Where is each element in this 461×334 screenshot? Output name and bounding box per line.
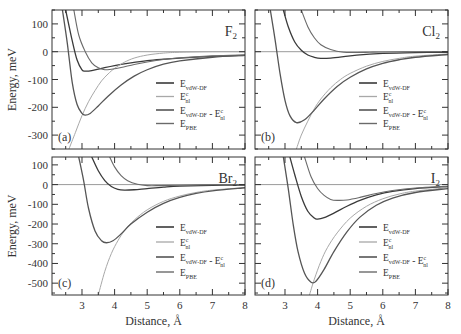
curves [283,157,448,295]
y-tick-label: 100 [32,159,49,171]
figure-4-panels: 1000-100-200-300Energy, meV(a)F2EvdW-DFE… [0,0,461,334]
panel-tag: (c) [58,276,71,290]
curves [62,10,245,149]
y-tick-label: -100 [28,198,49,210]
panel-tag: (a) [58,130,71,144]
legend-label: Ecnl [180,237,190,250]
panel-b: (b)Cl2EvdW-DFEcnlEvdW-DF - EcnlEPBE [255,10,448,149]
molecule-subscript: 2 [233,178,238,188]
molecule-label: Br2 [219,171,238,188]
legend-label: EPBE [180,119,197,131]
y-tick-label: 0 [43,179,49,191]
y-tick-label: -500 [28,277,49,289]
legend: EvdW-DFEcnlEvdW-DF - EcnlEPBE [156,223,225,280]
x-tick-label: 7 [210,299,216,311]
legend-label: EvdW-DF - Ecnl [383,253,428,268]
molecule-label: Cl2 [422,24,440,41]
x-tick-label: 3 [282,299,288,311]
panel-tag: (d) [261,276,275,290]
x-tick-label: 5 [144,299,150,311]
legend: EvdW-DFEcnlEvdW-DF - EcnlEPBE [156,79,225,132]
x-tick-label: 4 [315,299,321,311]
series-line-e-pbe [305,157,448,200]
plot-frame [255,10,448,149]
legend-label: Ecnl [180,91,190,104]
x-tick-label: 6 [177,299,183,311]
panel-a: 1000-100-200-300Energy, meV(a)F2EvdW-DFE… [5,10,245,149]
legend-label: EvdW-DF [383,223,410,235]
x-tick-label: 8 [445,299,451,311]
y-tick-label: 0 [43,46,49,58]
y-tick-label: -200 [28,218,49,230]
legend: EvdW-DFEcnlEvdW-DF - EcnlEPBE [359,79,428,132]
y-tick-label: 100 [32,18,49,30]
plot-frame [52,10,245,149]
y-axis-title: Energy, meV [5,194,19,257]
legend-label: EPBE [383,268,400,280]
series-line-e-vdw-df-e-nl-c [79,157,245,243]
molecule-subscript: 2 [233,31,238,41]
molecule-subscript: 2 [436,178,441,188]
x-tick-label: 4 [112,299,118,311]
panel-d: 345678Distance, Å(d)I2EvdW-DFEcnlEvdW-DF… [255,157,451,328]
y-tick-label: -300 [28,129,49,141]
panel-c: 3456781000-100-200-300-400-500Energy, me… [5,157,248,328]
legend-label: EPBE [180,268,197,280]
x-tick-label: 6 [380,299,386,311]
plot-frame [52,157,245,295]
molecule-label: I2 [431,171,440,188]
x-tick-label: 3 [79,299,85,311]
x-axis-title: Distance, Å [328,314,385,328]
legend-label: EvdW-DF [383,79,410,91]
y-tick-label: -100 [28,74,49,86]
legend-label: EvdW-DF - Ecnl [383,106,428,121]
legend: EvdW-DFEcnlEvdW-DF - EcnlEPBE [359,223,428,280]
series-line-e-pbe [74,10,245,70]
x-tick-label: 8 [242,299,248,311]
y-axis-title: Energy, meV [5,48,19,111]
x-tick-label: 7 [413,299,419,311]
molecule-subscript: 2 [436,31,441,41]
series-line-e-nl-c [296,54,448,149]
x-axis-title: Distance, Å [125,314,182,328]
legend-label: EPBE [383,119,400,131]
legend-label: Ecnl [383,237,393,250]
molecule-label: F2 [225,24,237,41]
legend-label: EvdW-DF - Ecnl [180,253,225,268]
series-line-e-vdw-df [66,10,245,71]
legend-label: EvdW-DF - Ecnl [180,106,225,121]
legend-label: EvdW-DF [180,79,207,91]
y-tick-label: -400 [28,257,49,269]
panel-tag: (b) [261,130,275,144]
y-tick-label: -300 [28,238,49,250]
legend-label: EvdW-DF [180,223,207,235]
x-tick-label: 5 [347,299,353,311]
legend-label: Ecnl [383,91,393,104]
y-tick-label: -200 [28,101,49,113]
series-line-e-nl-c [98,188,245,295]
